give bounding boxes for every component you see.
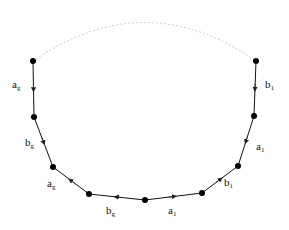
arrow-e1 (42, 137, 44, 143)
edge-label-e6: a1 (256, 141, 264, 152)
arrow-e6 (246, 136, 248, 142)
vertex-dot-v2 (50, 164, 56, 170)
edge-arrow-group (33, 84, 255, 198)
edge-label-subscript: 1 (261, 146, 265, 154)
vertex-dot-v4 (142, 197, 148, 203)
edge-label-subscript: g (112, 210, 116, 218)
vertex-dot-v7 (251, 113, 257, 119)
edge-label-base: b (265, 78, 271, 90)
arrow-e4 (169, 196, 175, 197)
fundamental-polygon-figure (0, 0, 289, 230)
edge-line-group (33, 61, 256, 200)
edge-label-e5: b1 (224, 177, 233, 188)
edge-label-e2: ag (47, 178, 55, 189)
edge-label-e1: bg (25, 137, 34, 148)
edge-label-e7: b1 (265, 79, 274, 90)
dotted-top-arc (33, 23, 256, 62)
edge-label-base: b (25, 136, 31, 148)
edge-label-subscript: g (52, 183, 56, 191)
vertex-dot-v6 (235, 163, 241, 169)
edge-label-base: b (224, 176, 230, 188)
arrow-e5 (216, 179, 221, 183)
edge-label-subscript: g (31, 142, 35, 150)
vertex-dot-v5 (199, 190, 205, 196)
edge-label-e0: ag (12, 79, 20, 90)
edge-label-subscript: 1 (230, 182, 234, 190)
vertex-dot-v0 (30, 58, 36, 64)
edge-label-e4: a1 (168, 205, 176, 216)
edge-label-subscript: 1 (271, 84, 275, 92)
edge-label-e3: bg (106, 205, 115, 216)
arrow-e3 (116, 197, 122, 198)
vertex-dot-v8 (253, 58, 259, 64)
arrow-e2 (70, 180, 75, 184)
vertex-dot-v3 (86, 191, 92, 197)
edge-label-subscript: 1 (173, 210, 177, 218)
edge-label-base: b (106, 204, 112, 216)
edge-label-subscript: g (17, 84, 21, 92)
vertex-dot-v1 (31, 114, 37, 120)
